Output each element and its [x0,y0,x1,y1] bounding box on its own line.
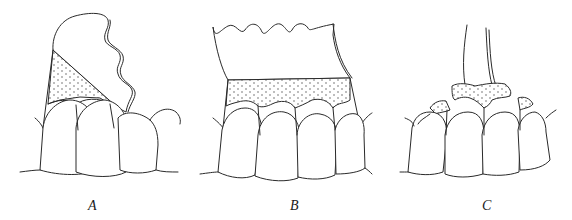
figure-drawing [0,0,572,220]
panel-label-c: C [482,198,491,214]
panel-a-drawing [20,13,180,176]
dental-figure: A B C [0,0,572,220]
panel-c-drawing [400,25,556,177]
panel-label-b: B [290,198,299,214]
panel-b-drawing [200,24,372,181]
panel-label-a: A [88,198,97,214]
